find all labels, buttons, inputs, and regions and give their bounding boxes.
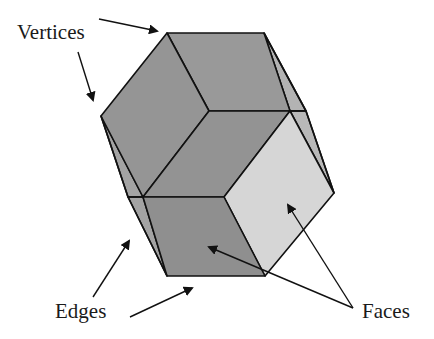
arrow-vertices-top: [99, 19, 157, 31]
polyhedron-diagram: [0, 0, 434, 339]
faces-label: Faces: [362, 301, 410, 322]
edges-label: Edges: [55, 301, 106, 322]
arrow-faces-light: [288, 205, 353, 308]
arrow-vertices-left: [78, 52, 93, 100]
polyhedron: [101, 33, 334, 276]
vertices-label: Vertices: [17, 22, 85, 43]
arrow-edges-bottom: [130, 288, 192, 317]
arrow-edges-left: [93, 241, 129, 297]
